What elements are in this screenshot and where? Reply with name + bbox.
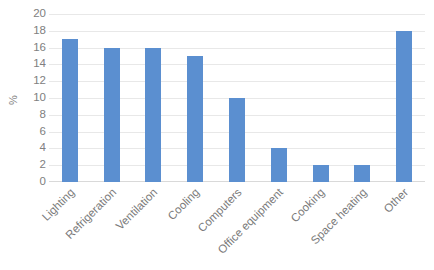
bar (354, 165, 370, 182)
y-axis-tick-label: 4 (22, 142, 46, 153)
gridline (49, 14, 425, 15)
bar (229, 98, 245, 182)
gridline (49, 31, 425, 32)
plot-area (49, 14, 425, 182)
bar (104, 48, 120, 182)
y-axis-tick-label: 16 (22, 42, 46, 53)
x-axis-tick-label: Cooling (166, 186, 202, 222)
x-axis-tick-label: Other (382, 186, 411, 215)
y-axis-tick-label: 10 (22, 92, 46, 103)
x-axis-tick-label: Cooking (289, 186, 327, 224)
bar (145, 48, 161, 182)
bar (187, 56, 203, 182)
x-axis-tick-label: Ventilation (114, 186, 160, 232)
y-axis-tick-label: 20 (22, 8, 46, 19)
y-axis-tick-labels: 20181614121086420 (20, 0, 46, 270)
bar (62, 39, 78, 182)
bar (313, 165, 329, 182)
y-axis-tick-label: 12 (22, 75, 46, 86)
y-axis-tick-label: 0 (22, 176, 46, 187)
y-axis-tick-label: 2 (22, 159, 46, 170)
y-axis-tick-label: 6 (22, 126, 46, 137)
x-axis-category-labels: LightingRefrigerationVentilationCoolingC… (49, 182, 425, 270)
y-axis-tick-label: 18 (22, 25, 46, 36)
y-axis-tick-label: 8 (22, 109, 46, 120)
y-axis-tick-label: 14 (22, 58, 46, 69)
bar (396, 31, 412, 182)
bar-chart: % 20181614121086420 LightingRefrigeratio… (0, 0, 434, 270)
bar (271, 148, 287, 182)
